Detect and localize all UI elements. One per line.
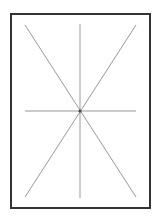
radial-lines-diagram bbox=[0, 0, 160, 217]
center-point bbox=[79, 110, 82, 113]
